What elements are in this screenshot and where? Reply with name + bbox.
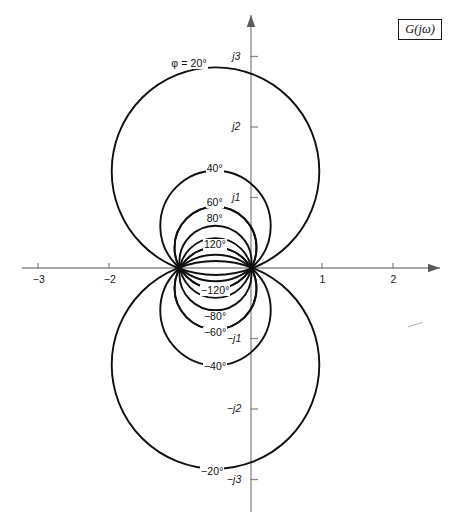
y-tick-label: j1 [232, 191, 240, 203]
phase-curve-label: 80° [206, 213, 224, 224]
plot-canvas [0, 0, 454, 517]
phase-curve-label: 60° [206, 197, 224, 208]
x-tick-label: 2 [390, 273, 396, 285]
y-tick-label: −j1 [227, 332, 242, 344]
phase-curve-label: 40° [206, 163, 224, 174]
stray-scan-mark [408, 322, 423, 327]
phase-curve-label: φ = 20° [170, 58, 207, 69]
phase-curve-label: −40° [203, 361, 227, 372]
legend-label: G(jω) [405, 22, 435, 36]
imaginary-axis-arrowhead [247, 15, 255, 27]
x-tick-label: −3 [33, 273, 45, 285]
y-tick-label: j3 [232, 50, 240, 62]
phase-curve-label: −20° [200, 466, 224, 477]
phase-curve-label: 120° [203, 239, 227, 250]
phase-curve-label: −80° [203, 311, 227, 322]
stray-mark-line [408, 322, 423, 327]
phase-curve-label: −120° [200, 285, 230, 296]
axes-group [22, 15, 440, 512]
y-tick-label: −j3 [227, 473, 242, 485]
phase-curve-label: −60° [203, 327, 227, 338]
x-tick-label: 1 [319, 273, 325, 285]
y-tick-label: j2 [232, 120, 240, 132]
x-tick-label: −2 [104, 273, 116, 285]
y-tick-label: −j2 [227, 402, 242, 414]
complex-plane-figure: −3−212j3j2j1−j1−j2−j3 φ = 20°40°60°80°12… [0, 0, 454, 517]
legend-box: G(jω) [398, 19, 442, 40]
real-axis-arrowhead [428, 264, 440, 272]
